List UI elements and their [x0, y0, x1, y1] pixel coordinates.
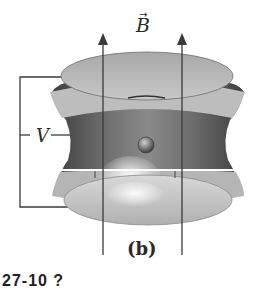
top-end-cap — [61, 52, 233, 100]
caption-fragment: 27-10 ? — [2, 272, 64, 290]
magnetic-field-label: B — [136, 14, 150, 36]
panel-label: (b) — [127, 238, 157, 259]
voltage-label: V — [34, 125, 51, 146]
trapped-particle — [138, 137, 154, 153]
